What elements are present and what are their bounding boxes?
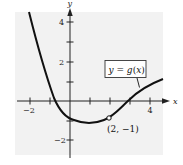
y-tick-label-2: 2 (59, 58, 64, 67)
open-point-marker (107, 116, 111, 120)
y-tick-label-neg2: −2 (54, 136, 66, 145)
y-tick-label-4: 4 (59, 18, 64, 27)
plot-background (15, 12, 163, 155)
x-tick-label-4: 4 (148, 106, 153, 115)
x-tick-label-neg2: −2 (23, 106, 35, 115)
x-axis-label: x (173, 97, 178, 106)
point-label: (2, −1) (107, 124, 139, 134)
y-axis-label: y (67, 0, 73, 8)
x-axis-arrow-icon (162, 98, 170, 103)
graph-canvas: −2 4 x 4 2 −2 y (2, −1) y = g(x) (0, 0, 183, 165)
function-label: y = g(x) (108, 65, 145, 75)
